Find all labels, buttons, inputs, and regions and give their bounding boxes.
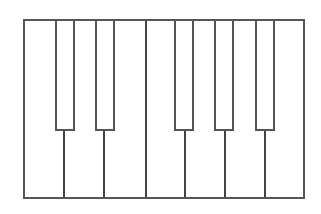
black-key-g-sharp: G# [214,21,234,131]
black-key-f-sharp: F# [174,21,194,131]
diagram-canvas: C D E F G A B C# D# F# G# A# [0,0,321,214]
black-key-a-sharp: A# [255,21,275,131]
piano-keyboard: C D E F G A B C# D# F# G# A# [23,19,305,199]
black-key-c-sharp: C# [55,21,75,131]
black-key-d-sharp: D# [95,21,115,131]
